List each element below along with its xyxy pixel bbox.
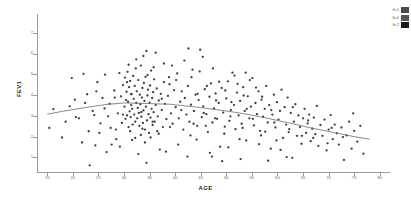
legend-label: fit.2 bbox=[393, 23, 399, 27]
legend-swatch bbox=[401, 15, 409, 21]
legend-item[interactable]: fit.0 bbox=[393, 15, 409, 21]
plot-area bbox=[0, 0, 411, 203]
legend-item[interactable]: fit.1 bbox=[393, 7, 409, 13]
legend-swatch bbox=[401, 22, 409, 28]
chart-legend: fit.1fit.0fit.2 bbox=[393, 7, 409, 28]
legend-swatch bbox=[401, 7, 409, 13]
legend-label: fit.0 bbox=[393, 16, 399, 20]
fit-line bbox=[47, 103, 369, 139]
scatter-plot-chart: 1234567 1520253035404550556065707580 FEV… bbox=[0, 0, 411, 203]
legend-label: fit.1 bbox=[393, 8, 399, 12]
fit-line-layer bbox=[0, 0, 411, 203]
legend-item[interactable]: fit.2 bbox=[393, 22, 409, 28]
